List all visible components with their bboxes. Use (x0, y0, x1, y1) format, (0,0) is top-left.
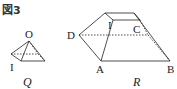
figure-canvas: O I Q I C D A B R (0, 0, 177, 89)
solid-r (79, 13, 170, 61)
vertex-label-i-r: I (108, 19, 112, 31)
vertex-label-o: O (25, 28, 33, 40)
caption-q: Q (23, 75, 32, 89)
vertex-label-d: D (67, 29, 75, 41)
vertex-label-b: B (167, 63, 174, 75)
vertex-label-c: C (133, 23, 140, 35)
vertex-label-a: A (96, 63, 104, 75)
caption-r: R (132, 75, 141, 89)
solid-q (11, 41, 45, 61)
vertex-label-i-q: I (10, 61, 14, 73)
